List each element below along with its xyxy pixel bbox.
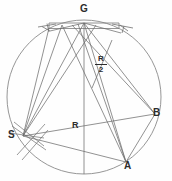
geometric-diagram: G B A S R R 2 [0, 0, 172, 181]
chord-g-to-a [84, 23, 126, 162]
chord-b-to-g-left [72, 25, 155, 114]
chord-s-to-g2 [23, 25, 96, 136]
point-label-a: A [124, 161, 131, 171]
chords-from-a [62, 24, 126, 162]
chord-a-to-topleft [62, 25, 126, 162]
radius-label: R [72, 121, 79, 130]
chord-s-to-b [23, 114, 155, 136]
point-label-g: G [80, 4, 88, 14]
half-radius-label: R 2 [95, 55, 107, 74]
chord-s-to-topleft [23, 28, 49, 136]
diagram-canvas [0, 0, 172, 181]
point-label-b: B [153, 108, 160, 118]
left-tick-mark [38, 24, 56, 33]
point-label-s: S [8, 130, 15, 140]
chord-s-to-topmid [23, 25, 62, 136]
chord-a-to-topmid [78, 24, 126, 162]
half-radius-denominator: 2 [95, 66, 107, 74]
chord-b-to-a [126, 114, 155, 162]
chord-s-to-a [23, 136, 126, 162]
chords-from-g [23, 23, 155, 174]
chords-from-b [72, 25, 155, 162]
chords-from-s [23, 25, 155, 162]
half-radius-numerator: R [95, 55, 107, 63]
